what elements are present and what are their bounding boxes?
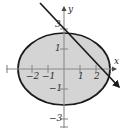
y-tick-label-neg1: −1 (49, 84, 62, 93)
y-axis-label: y (68, 5, 73, 14)
x-tick-label-pos1: 1 (78, 72, 84, 81)
y-tick-label-neg3: −3 (49, 114, 62, 123)
y-tick-label-pos3: 3 (55, 20, 61, 29)
x-axis-label: x (114, 57, 119, 66)
x-tick-label-neg2: −2 (26, 72, 39, 81)
math-figure-ellipse-tangent: −2 −1 1 2 3 1 −1 −3 x y (0, 0, 126, 135)
x-tick-label-neg1: −1 (42, 72, 55, 81)
figure-canvas (0, 0, 126, 135)
y-tick-label-pos1: 1 (55, 44, 61, 53)
x-tick-label-pos2: 2 (94, 72, 100, 81)
